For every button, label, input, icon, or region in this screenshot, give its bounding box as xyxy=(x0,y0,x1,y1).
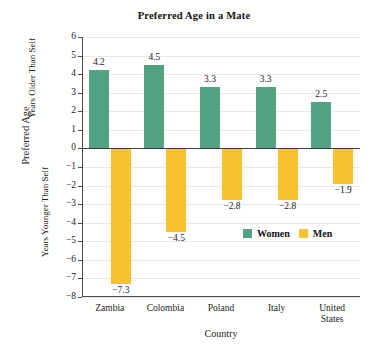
bar-value-label: 3.3 xyxy=(248,74,284,84)
bar-value-label: 4.5 xyxy=(136,52,172,62)
y-axis-label-lower: Years Younger Than Self xyxy=(40,148,50,276)
y-tick-mark xyxy=(78,93,82,94)
y-axis-line xyxy=(82,37,83,297)
y-tick-mark xyxy=(78,204,82,205)
legend-item-women[interactable]: Women xyxy=(243,228,290,239)
x-tick-label-line: Poland xyxy=(208,303,234,313)
y-tick-mark xyxy=(78,56,82,57)
y-tick-label: 5 xyxy=(52,50,76,60)
y-tick-label: 1 xyxy=(52,124,76,134)
chart-container: Preferred Age in a Mate Preferred Age Ye… xyxy=(0,0,388,355)
bar-value-label: −4.5 xyxy=(158,233,194,243)
y-tick-label: −2 xyxy=(52,180,76,190)
y-tick-mark xyxy=(78,186,82,187)
x-tick-label: UnitedStates xyxy=(294,303,370,325)
plot-area: 4.2−7.34.5−4.53.3−2.83.3−2.82.5−1.9 xyxy=(82,37,360,297)
y-tick-label: 2 xyxy=(52,105,76,115)
bar-value-label: −2.8 xyxy=(214,201,250,211)
bar-value-label: −7.3 xyxy=(103,285,139,295)
y-tick-mark xyxy=(78,148,82,149)
bar-women-colombia xyxy=(144,65,164,149)
bar-men-colombia xyxy=(166,148,186,232)
legend-swatch-women-icon xyxy=(243,229,252,238)
y-tick-label: −3 xyxy=(52,198,76,208)
legend-label-men: Men xyxy=(313,228,332,239)
y-tick-mark xyxy=(78,260,82,261)
y-tick-mark xyxy=(78,223,82,224)
x-axis-label: Country xyxy=(82,328,360,339)
x-tick-label-line: Zambia xyxy=(95,303,124,313)
y-tick-label: 3 xyxy=(52,87,76,97)
y-tick-label: −8 xyxy=(52,291,76,301)
bar-value-label: −1.9 xyxy=(325,185,361,195)
y-tick-mark xyxy=(78,278,82,279)
bar-men-italy xyxy=(278,148,298,200)
gridline xyxy=(82,37,360,38)
bar-men-poland xyxy=(222,148,242,200)
y-tick-label: −1 xyxy=(52,161,76,171)
bar-value-label: −2.8 xyxy=(270,201,306,211)
x-tick-label-line: United xyxy=(319,303,345,313)
y-tick-label: −6 xyxy=(52,254,76,264)
chart-title: Preferred Age in a Mate xyxy=(0,10,388,21)
y-tick-mark xyxy=(78,130,82,131)
legend-swatch-men-icon xyxy=(299,229,308,238)
bar-women-united-states xyxy=(311,102,331,148)
zero-axis-line xyxy=(80,148,360,149)
gridline xyxy=(82,56,360,57)
y-tick-label: −5 xyxy=(52,235,76,245)
legend-label-women: Women xyxy=(257,228,290,239)
y-tick-mark xyxy=(78,241,82,242)
y-tick-label: 0 xyxy=(52,142,76,152)
bar-men-zambia xyxy=(111,148,131,284)
y-tick-label: −4 xyxy=(52,217,76,227)
bar-women-poland xyxy=(200,87,220,148)
bar-value-label: 3.3 xyxy=(192,74,228,84)
x-tick-label-line: States xyxy=(321,314,344,324)
y-tick-mark xyxy=(78,167,82,168)
y-tick-mark xyxy=(78,297,82,298)
x-axis-line xyxy=(82,296,360,297)
y-tick-label: −7 xyxy=(52,272,76,282)
y-axis-label-upper: Years Older Than Self xyxy=(27,23,37,133)
bar-value-label: 4.2 xyxy=(81,57,117,67)
x-tick-label-line: Italy xyxy=(268,303,285,313)
y-tick-label: 6 xyxy=(52,31,76,41)
gridline xyxy=(82,297,360,298)
bar-women-zambia xyxy=(89,70,109,148)
y-tick-label: 4 xyxy=(52,68,76,78)
bar-men-united-states xyxy=(333,148,353,183)
legend-item-men[interactable]: Men xyxy=(299,228,332,239)
bar-value-label: 2.5 xyxy=(303,89,339,99)
y-tick-mark xyxy=(78,37,82,38)
y-tick-mark xyxy=(78,74,82,75)
y-tick-mark xyxy=(78,111,82,112)
x-tick-label-line: Colombia xyxy=(147,303,184,313)
legend: Women Men xyxy=(243,228,332,239)
bar-women-italy xyxy=(256,87,276,148)
